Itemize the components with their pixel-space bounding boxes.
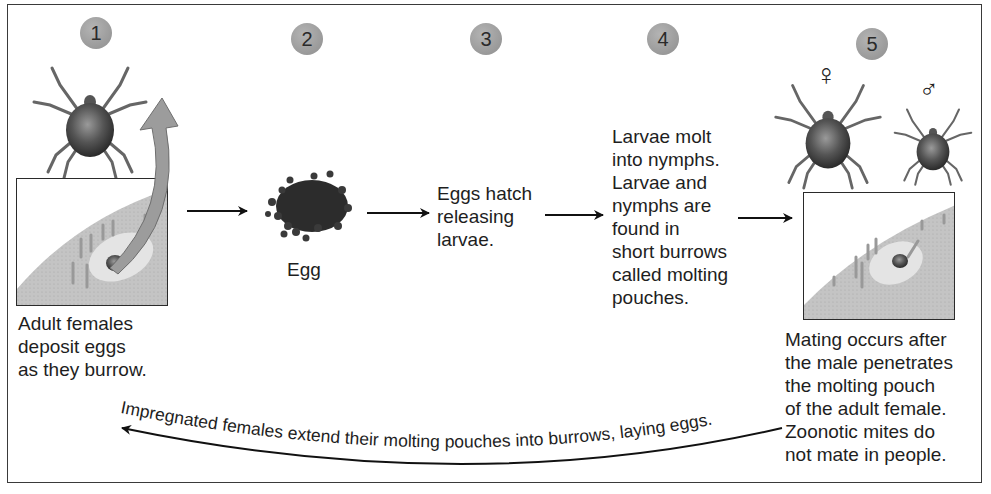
- arrow-step3-to-step4-icon: [545, 209, 605, 221]
- step-1-badge: 1: [80, 17, 112, 49]
- skin-molting-pouch-icon: [804, 193, 955, 320]
- step-5-molting-pouch-panel: [803, 192, 955, 320]
- egg-cluster-icon: [258, 168, 358, 248]
- male-mite-icon: [892, 104, 974, 186]
- step-3-badge: 3: [470, 23, 502, 55]
- step-4-badge: 4: [647, 23, 679, 55]
- arrow-step1-to-step2-icon: [187, 205, 249, 217]
- male-symbol-icon: ♂: [919, 76, 939, 102]
- step-2-badge: 2: [291, 23, 323, 55]
- step-1-caption: Adult females deposit eggs as they burro…: [18, 312, 147, 381]
- arrow-step2-to-step3-icon: [367, 207, 431, 219]
- burrow-entry-curved-arrow-icon: [100, 98, 180, 278]
- step-5-badge: 5: [856, 28, 888, 60]
- step-3-caption: Eggs hatch releasing larvae.: [437, 182, 532, 251]
- female-mite-icon: [772, 78, 884, 190]
- return-curved-arrow: Impregnated females extend their molting…: [110, 400, 790, 475]
- step-4-caption: Larvae molt into nymphs. Larvae and nymp…: [612, 125, 728, 309]
- step-5-caption: Mating occurs after the male penetrates …: [785, 328, 953, 466]
- arrow-step4-to-step5-icon: [738, 212, 794, 224]
- step-2-caption: Egg: [287, 258, 321, 281]
